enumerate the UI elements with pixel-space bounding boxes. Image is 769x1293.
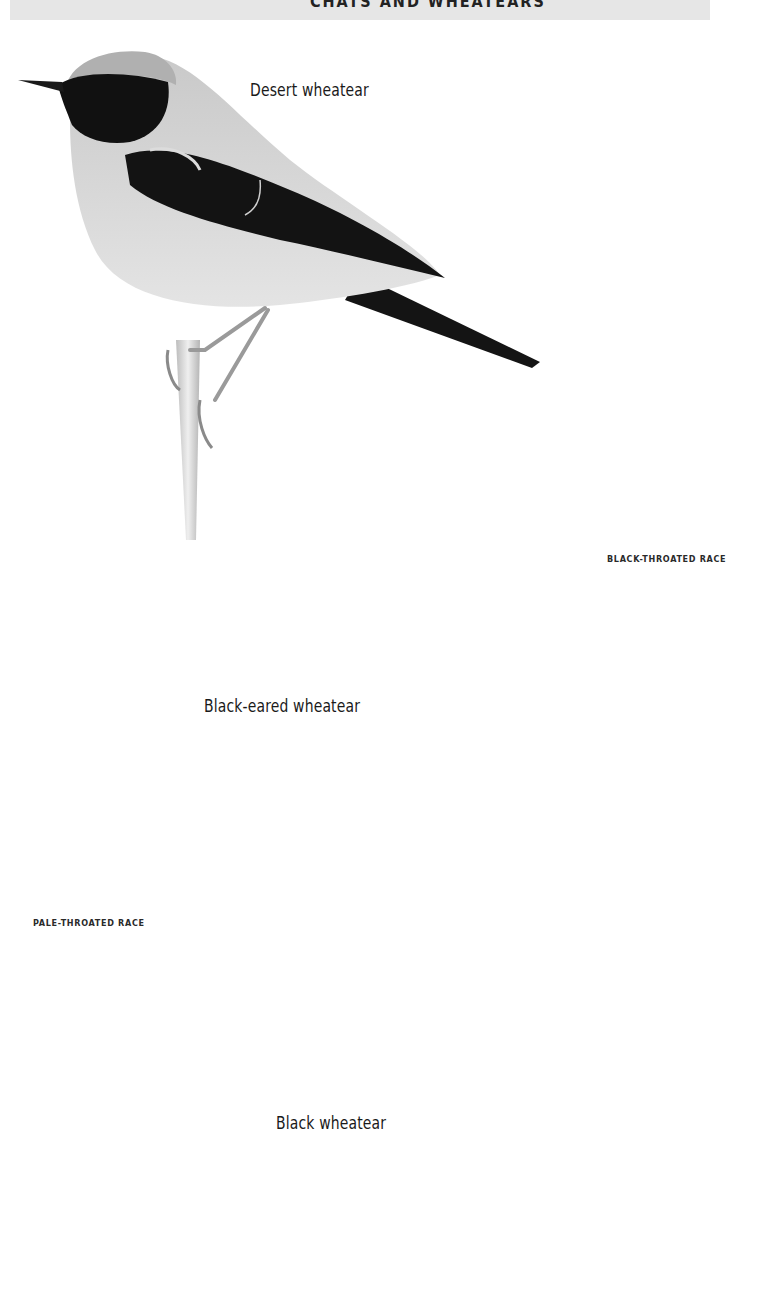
species-label-black-wheatear: Black wheatear: [276, 1113, 386, 1133]
race-label-pale-throated: PALE-THROATED RACE: [33, 917, 145, 928]
illustration-plate: [0, 0, 769, 1293]
species-label-desert-wheatear: Desert wheatear: [250, 80, 369, 100]
bird-desert-wheatear: [18, 51, 540, 540]
perch-stem: [176, 340, 200, 540]
species-label-black-eared-wheatear: Black-eared wheatear: [204, 696, 360, 716]
race-label-black-throated: BLACK-THROATED RACE: [607, 553, 726, 564]
beak: [18, 80, 64, 92]
